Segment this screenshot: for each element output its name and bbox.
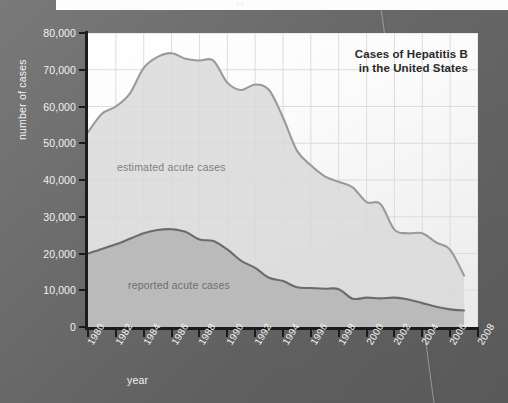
chart-figure: Cases of Hepatitis B in the United State…	[0, 0, 508, 403]
y-tick	[79, 69, 86, 71]
y-tick-label: 20,000	[0, 248, 76, 260]
y-tick-label: 40,000	[0, 174, 76, 186]
y-tick-label: 60,000	[0, 101, 76, 113]
x-tick-label: 2008	[475, 321, 497, 346]
y-tick-label: 50,000	[0, 137, 76, 149]
plot-area: Cases of Hepatitis B in the United State…	[88, 33, 478, 327]
y-tick	[79, 179, 86, 181]
series-label-reported: reported acute cases	[128, 279, 230, 291]
y-tick	[79, 32, 86, 34]
y-tick-label: 80,000	[0, 27, 76, 39]
y-tick-label: 10,000	[0, 284, 76, 296]
y-tick	[79, 106, 86, 108]
x-axis-title: year	[127, 374, 148, 386]
series-label-estimated: estimated acute cases	[117, 161, 226, 173]
chart-title: Cases of Hepatitis B in the United State…	[336, 47, 468, 75]
y-tick-label: 70,000	[0, 64, 76, 76]
y-axis-title: number of cases	[16, 59, 28, 140]
y-tick-label: 30,000	[0, 211, 76, 223]
y-tick	[79, 326, 86, 328]
y-tick	[79, 142, 86, 144]
chart-title-line-1: Cases of Hepatitis B	[336, 47, 468, 61]
chart-title-line-2: in the United States	[336, 61, 468, 75]
y-tick-label: 0	[0, 321, 76, 333]
y-tick	[79, 253, 86, 255]
y-tick	[79, 289, 86, 291]
y-tick	[79, 216, 86, 218]
